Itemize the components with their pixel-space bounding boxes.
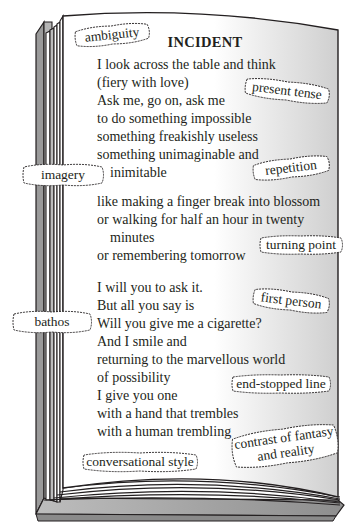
poem-line: inimitable [110, 164, 167, 182]
poem-line: or walking for half an hour in twenty [97, 211, 304, 229]
poem-line: And I smile and [97, 333, 187, 351]
poem-line: But all you say is [97, 297, 194, 315]
poem-line: minutes [110, 229, 154, 247]
annotation-imagery: imagery [20, 163, 106, 187]
poem-line: returning to the marvellous world [97, 351, 285, 369]
poem-line: something unimaginable and [97, 146, 259, 164]
poem-line: Will you give me a cigarette? [97, 315, 262, 333]
poem-line: Ask me, go on, ask me [97, 92, 225, 110]
poem-line: with a hand that trembles [97, 405, 239, 423]
poem-title: INCIDENT [150, 34, 260, 51]
poem-line: like making a finger break into blossom [97, 193, 320, 211]
annotation-conversational-style: conversational style [80, 451, 200, 473]
annotation-turning-point: turning point [257, 235, 345, 255]
poem-line: with a human trembling [97, 423, 231, 441]
poem-line: to do something impossible [97, 110, 251, 128]
poem-line: I give you one [97, 387, 177, 405]
poem-line: something freakishly useless [97, 128, 258, 146]
poem-line: or remembering tomorrow [97, 247, 246, 265]
poem-line: of possibility [97, 369, 171, 387]
poem-line: I will you to ask it. [97, 279, 203, 297]
page-stack [44, 16, 63, 502]
annotation-bathos: bathos [10, 310, 94, 334]
poem-line: I look across the table and think [97, 56, 276, 74]
poem-line: (fiery with love) [97, 74, 189, 92]
annotation-end-stopped-line: end-stopped line [229, 374, 333, 394]
